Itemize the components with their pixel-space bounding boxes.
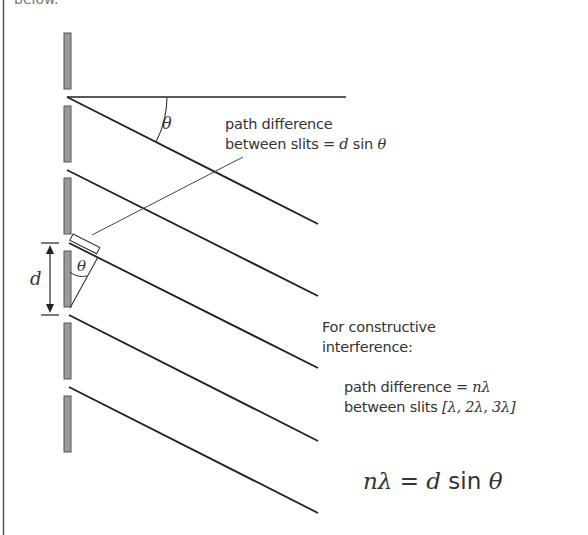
grating-bar — [64, 33, 71, 89]
ray-2 — [67, 170, 318, 296]
angle-label-inner: θ — [77, 259, 86, 274]
ray-5 — [69, 387, 318, 513]
path-difference-label-line1: path difference — [225, 117, 333, 132]
path-difference-label-line2: between slits = d sin θ — [225, 137, 386, 152]
constructive-label-line1: For constructive — [322, 320, 436, 335]
slit-spacing-dimension — [41, 243, 59, 315]
condition-line1: path difference = nλ — [344, 380, 491, 395]
grating-bar — [64, 106, 71, 162]
condition-line2: between slits [λ, 2λ, 3λ] — [344, 400, 516, 415]
caption-fragment: below. — [14, 0, 59, 6]
diffraction-grating-diagram: below. θ path difference between slits =… — [0, 0, 588, 535]
angle-label-top: θ — [162, 116, 172, 132]
slit-spacing-label: d — [30, 270, 42, 288]
grating-bar — [64, 251, 71, 307]
constructive-label-line2: interference: — [322, 340, 413, 355]
diagram-canvas — [0, 0, 588, 535]
grating-bar — [64, 323, 71, 379]
diffracted-rays — [67, 97, 318, 513]
ray-4 — [69, 315, 318, 441]
grating-bar — [64, 396, 71, 452]
ray-3 — [69, 243, 318, 368]
grating-equation: nλ = d sin θ — [363, 470, 502, 493]
grating-bar — [64, 178, 71, 234]
leader-line — [92, 157, 243, 235]
